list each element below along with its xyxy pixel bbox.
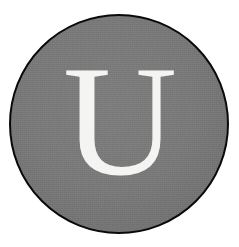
circular-badge[interactable]: U bbox=[9, 14, 229, 234]
monogram-letter: U bbox=[63, 43, 177, 201]
badge-canvas: U bbox=[0, 0, 239, 247]
